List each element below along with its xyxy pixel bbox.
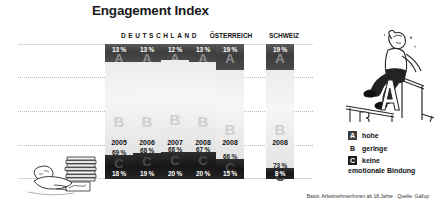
- stacked-bar[interactable]: A13 %B68 %C19 %: [133, 44, 161, 179]
- stacked-bar[interactable]: A19 %B73 %C8 %: [266, 44, 294, 179]
- country-header-schweiz: SCHWEIZ: [255, 32, 313, 39]
- segment-a-value: 13 %: [112, 46, 126, 53]
- segment-c-glyph: C: [170, 154, 179, 167]
- segment-a-value: 13 %: [140, 46, 154, 53]
- stacked-bar[interactable]: A19 %B66 %C15 %: [216, 44, 244, 179]
- segment-c-value: 20 %: [168, 170, 182, 177]
- segment-a: A19 %: [216, 44, 244, 70]
- country-header-oesterreich: ÖSTERREICH: [202, 32, 260, 39]
- legend-item-b: B geringe: [348, 143, 387, 154]
- legend-footer: emotionale Bindung: [348, 167, 415, 174]
- source-note: Basis: Arbeitnehmer/innen ab 18 Jahre · …: [307, 193, 429, 199]
- year-label: 2008: [216, 139, 244, 146]
- legend-item-a: A hohe: [348, 130, 387, 141]
- segment-a: A13 %: [105, 44, 133, 62]
- year-label: 2008: [189, 139, 217, 146]
- year-label: 2005: [105, 139, 133, 146]
- legend-label-b: geringe: [362, 145, 387, 152]
- segment-c: C18 %: [105, 155, 133, 179]
- country-header-deutschland: DEUTSCHLAND: [105, 32, 215, 39]
- stacked-bar[interactable]: A12 %B68 %C20 %: [161, 44, 189, 179]
- segment-b: B73 %: [266, 70, 294, 169]
- segment-c-value: 8 %: [275, 170, 286, 177]
- year-label: 2006: [133, 139, 161, 146]
- segment-c-value: 19 %: [140, 170, 154, 177]
- segment-c: C20 %: [189, 152, 217, 179]
- man-lying-with-papers-illustration: [22, 145, 108, 197]
- legend: A hohe B geringe C keine: [348, 130, 387, 168]
- segment-a: A19 %: [266, 44, 294, 70]
- segment-c: C19 %: [133, 153, 161, 179]
- segment-b-glyph: B: [225, 122, 236, 137]
- segment-b-glyph: B: [198, 114, 209, 129]
- segment-b-glyph: B: [114, 114, 125, 129]
- legend-item-c: C keine: [348, 155, 387, 166]
- segment-a: A13 %: [133, 44, 161, 62]
- legend-label-a: hohe: [362, 132, 379, 139]
- segment-c: C8 %: [266, 168, 294, 179]
- segment-c-value: 15 %: [223, 170, 237, 177]
- segment-c-glyph: C: [114, 157, 123, 170]
- legend-label-c: keine: [362, 157, 380, 164]
- year-label: 2008: [266, 139, 294, 146]
- segment-c: C20 %: [161, 152, 189, 179]
- segment-a-value: 19 %: [223, 46, 237, 53]
- segment-a-value: 12 %: [168, 46, 182, 53]
- segment-b-glyph: B: [142, 114, 153, 129]
- page-title: Engagement Index: [92, 3, 209, 18]
- segment-a: A12 %: [161, 44, 189, 60]
- segment-c-glyph: C: [198, 154, 207, 167]
- chart-page: Engagement Index DEUTSCHLAND ÖSTERREICH …: [0, 0, 435, 208]
- segment-c-glyph: C: [142, 155, 151, 168]
- segment-c: C15 %: [216, 159, 244, 179]
- segment-a-value: 19 %: [273, 46, 287, 53]
- stacked-bar[interactable]: A13 %B67 %C20 %: [189, 44, 217, 179]
- segment-a-value: 13 %: [196, 46, 210, 53]
- segment-a-glyph: A: [275, 52, 284, 65]
- segment-c-value: 18 %: [112, 170, 126, 177]
- year-label: 2007: [161, 139, 189, 146]
- legend-key-b-icon: B: [348, 144, 357, 153]
- segment-b-glyph: B: [275, 122, 286, 137]
- legend-key-a-icon: A: [348, 131, 357, 140]
- segment-a: A13 %: [189, 44, 217, 62]
- segment-b-glyph: B: [170, 112, 181, 127]
- man-on-a-podium-illustration: [336, 30, 435, 122]
- stacked-bar[interactable]: A13 %B69 %C18 %: [105, 44, 133, 179]
- segment-a-glyph: A: [225, 52, 234, 65]
- segment-c-value: 20 %: [196, 170, 210, 177]
- legend-key-c-icon: C: [348, 156, 357, 165]
